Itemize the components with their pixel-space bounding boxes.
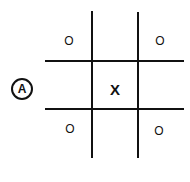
grid-line-horizontal-bottom xyxy=(45,108,184,110)
mark-top-left: O xyxy=(64,35,73,47)
grid-line-horizontal-top xyxy=(45,60,184,62)
mark-bottom-right: O xyxy=(154,125,163,137)
grid-line-vertical-left xyxy=(91,11,93,158)
mark-bottom-left: O xyxy=(65,123,74,135)
grid-line-vertical-right xyxy=(137,12,139,158)
mark-center: X xyxy=(110,82,120,97)
diagram-label-a: A xyxy=(11,78,33,100)
mark-top-right: O xyxy=(155,35,164,47)
